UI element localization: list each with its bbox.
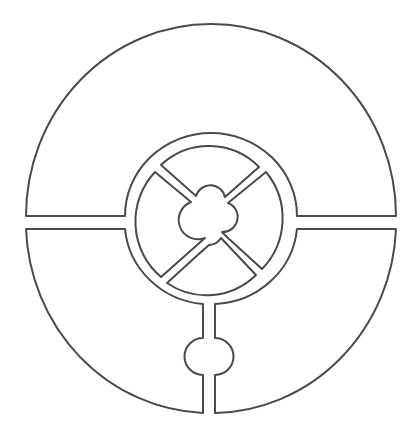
quadrant-left bbox=[135, 172, 205, 277]
maze-disc-diagram bbox=[0, 0, 417, 439]
outer-lower-left-arc bbox=[26, 229, 203, 413]
inner-quadrants bbox=[135, 146, 282, 295]
quadrant-right bbox=[222, 172, 283, 269]
outer-upper-arc bbox=[26, 24, 396, 216]
outer-lower-right-arc bbox=[215, 229, 396, 413]
quadrant-bottom bbox=[167, 238, 256, 295]
